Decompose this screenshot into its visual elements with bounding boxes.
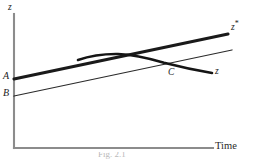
x-axis-label: Time xyxy=(215,141,237,152)
figure-caption: Fig. 2.1 xyxy=(98,152,126,159)
y-axis-label: z xyxy=(8,3,12,13)
label-z-curve-end: z xyxy=(215,67,219,77)
series-curve-z xyxy=(78,54,212,73)
label-point-a: A xyxy=(3,71,9,81)
figure-container: z Time A B C z* z Fig. 2.1 xyxy=(0,0,255,165)
label-point-c: C xyxy=(168,68,174,78)
label-z-star: z* xyxy=(231,23,239,33)
series-line-a xyxy=(14,34,228,79)
label-point-b: B xyxy=(3,88,9,98)
figure-caption-strip: Fig. 2.1 xyxy=(0,152,255,165)
label-z-star-superscript: * xyxy=(235,19,239,28)
